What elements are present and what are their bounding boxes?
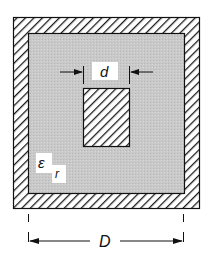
inner-conductor — [84, 89, 130, 147]
coax-diagram: d ε r D — [0, 0, 210, 260]
outer-dimension-D: D — [29, 214, 184, 250]
label-epsilon: ε — [38, 154, 45, 171]
label-d: d — [100, 63, 109, 80]
label-D: D — [99, 233, 111, 250]
